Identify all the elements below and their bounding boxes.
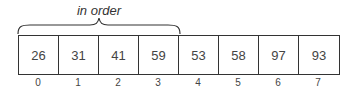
array-cell-5: 58 <box>219 36 259 74</box>
index-label-6: 6 <box>258 77 298 88</box>
index-label-1: 1 <box>58 77 98 88</box>
array-cell-0: 26 <box>19 36 59 74</box>
array-cell-7: 93 <box>299 36 339 74</box>
curly-brace-icon <box>16 17 182 35</box>
array-cell-3: 59 <box>139 36 179 74</box>
array-cell-6: 97 <box>259 36 299 74</box>
index-label-4: 4 <box>178 77 218 88</box>
index-label-5: 5 <box>218 77 258 88</box>
index-label-2: 2 <box>98 77 138 88</box>
index-label-3: 3 <box>138 77 178 88</box>
index-label-7: 7 <box>298 77 338 88</box>
array-cell-2: 41 <box>99 36 139 74</box>
array-boxes: 26 31 41 59 53 58 97 93 <box>18 35 340 75</box>
array-cell-1: 31 <box>59 36 99 74</box>
index-label-0: 0 <box>18 77 58 88</box>
array-cell-4: 53 <box>179 36 219 74</box>
in-order-label: in order <box>18 3 180 18</box>
array-indices: 0 1 2 3 4 5 6 7 <box>18 77 338 88</box>
